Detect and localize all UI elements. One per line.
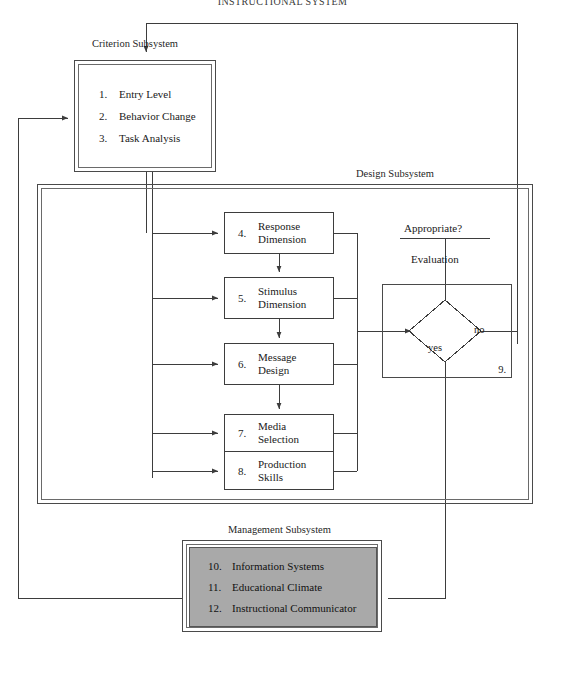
item-number: 8. — [238, 465, 258, 477]
process-box-stimulus-dimension: 5. StimulusDimension — [224, 277, 334, 319]
list-item: 11. Educational Climate — [208, 581, 376, 593]
criterion-subsystem-caption: Criterion Subsystem — [92, 38, 178, 49]
list-item: 2. Behavior Change — [99, 110, 215, 122]
management-subsystem-caption: Management Subsystem — [228, 524, 331, 535]
item-label: MediaSelection — [258, 420, 299, 446]
item-label: StimulusDimension — [258, 285, 306, 311]
management-subsystem-frame: 10. Information Systems 11. Educational … — [182, 540, 382, 632]
item-label: Behavior Change — [119, 110, 196, 122]
item-number: 1. — [99, 88, 119, 100]
item-label: Instructional Communicator — [232, 602, 356, 614]
process-box-message-design: 6. MessageDesign — [224, 343, 334, 385]
list-item: 1. Entry Level — [99, 88, 215, 100]
process-box-production-skills: 8. ProductionSkills — [224, 452, 334, 490]
item-number: 11. — [208, 581, 232, 593]
item-number: 12. — [208, 602, 232, 614]
list-item: 12. Instructional Communicator — [208, 602, 376, 614]
page-title: INSTRUCTIONAL SYSTEM — [0, 0, 565, 7]
item-number: 7. — [238, 427, 258, 439]
decision-branch-no-label: no — [474, 324, 485, 335]
management-shaded-panel: 10. Information Systems 11. Educational … — [189, 547, 377, 627]
item-number: 2. — [99, 110, 119, 122]
decision-branch-yes-label: yes — [428, 342, 442, 353]
item-label: MessageDesign — [258, 351, 297, 377]
list-item: 10. Information Systems — [208, 560, 376, 572]
item-number: 6. — [238, 358, 258, 370]
management-item-list: 10. Information Systems 11. Educational … — [190, 548, 376, 626]
item-label: Educational Climate — [232, 581, 322, 593]
item-label: Entry Level — [119, 88, 171, 100]
decision-question-rule — [400, 238, 490, 239]
instructional-system-diagram: INSTRUCTIONAL SYSTEM — [0, 0, 565, 683]
criterion-subsystem-frame: 1. Entry Level 2. Behavior Change 3. Tas… — [74, 60, 216, 172]
process-box-media-selection: 7. MediaSelection — [224, 414, 334, 452]
item-number: 10. — [208, 560, 232, 572]
process-box-response-dimension: 4. ResponseDimension — [224, 212, 334, 254]
item-label: ProductionSkills — [258, 458, 306, 484]
decision-name-label: Evaluation — [411, 253, 459, 265]
item-label: Task Analysis — [119, 132, 180, 144]
item-label: Information Systems — [232, 560, 324, 572]
item-number: 5. — [238, 292, 258, 304]
item-number: 3. — [99, 132, 119, 144]
criterion-item-list: 1. Entry Level 2. Behavior Change 3. Tas… — [75, 61, 215, 171]
design-subsystem-caption: Design Subsystem — [356, 168, 434, 179]
evaluation-step-number: 9. — [498, 364, 506, 375]
evaluation-frame: 9. — [382, 284, 512, 378]
item-label: ResponseDimension — [258, 220, 306, 246]
decision-question-label: Appropriate? — [404, 222, 462, 234]
list-item: 3. Task Analysis — [99, 132, 215, 144]
item-number: 4. — [238, 227, 258, 239]
